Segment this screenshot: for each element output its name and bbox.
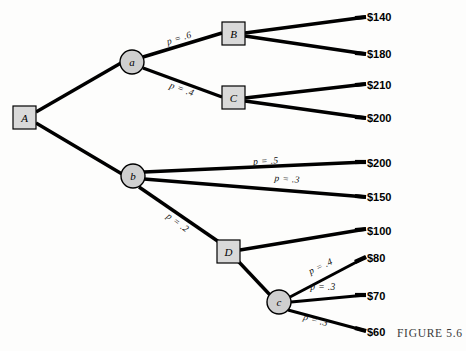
prob-label-c-to-payoff-60: p = .3 (301, 312, 329, 329)
decision-tree-figure: A B C D a b c p = .6 p (0, 0, 466, 351)
payoff-label-100: $100 (367, 225, 391, 237)
node-label-b: b (130, 170, 136, 182)
chance-node-b[interactable]: b (121, 164, 145, 188)
prob-label-c-to-payoff-80: p = .4 (306, 256, 334, 277)
prob-label-b-to-payoff-150: p = .3 (273, 173, 300, 185)
prob-label-c-to-payoff-70: p = .3 (309, 282, 335, 292)
payoff-label-70: $70 (367, 290, 385, 302)
payoff-tip-80 (355, 257, 366, 262)
payoff-label-group: $140 $180 $210 $200 $200 $150 $100 $80 $… (367, 11, 391, 338)
edge-c-to-payoff-70 (291, 295, 366, 302)
decision-node-C[interactable]: C (222, 86, 245, 109)
payoff-tip-100 (355, 229, 366, 230)
payoff-tip-140 (355, 17, 366, 18)
payoff-label-180: $180 (367, 48, 391, 60)
edge-A-to-a (36, 63, 121, 112)
node-label-C: C (230, 92, 238, 104)
edge-D-to-c (238, 261, 271, 296)
node-label-c: c (277, 296, 282, 308)
edge-C-to-payoff-210 (245, 84, 366, 98)
payoff-label-150: $150 (367, 191, 391, 203)
decision-node-A[interactable]: A (13, 106, 36, 129)
prob-label-b-to-payoff-200b: p = .5 (252, 155, 279, 166)
edge-B-to-payoff-140 (245, 17, 366, 33)
edge-b-to-payoff-150 (144, 179, 366, 197)
payoff-label-200b: $200 (367, 157, 391, 169)
node-label-D: D (224, 246, 233, 258)
payoff-label-200a: $200 (367, 112, 391, 124)
payoff-label-60: $60 (367, 326, 385, 338)
edge-B-to-payoff-180 (245, 36, 366, 54)
node-label-a: a (129, 56, 135, 68)
decision-node-D[interactable]: D (217, 240, 240, 263)
payoff-label-210: $210 (367, 79, 391, 91)
edge-b-to-D (139, 187, 219, 242)
payoff-tip-group (355, 17, 366, 331)
payoff-tip-200a (355, 117, 366, 118)
payoff-tip-180 (355, 53, 366, 54)
figure-caption: FIGURE 5.6 (397, 327, 463, 339)
node-label-B: B (230, 28, 237, 40)
decision-node-B[interactable]: B (222, 22, 245, 45)
node-label-A: A (20, 112, 28, 124)
payoff-tip-150 (355, 196, 366, 197)
edge-A-to-b (36, 123, 122, 174)
chance-node-c[interactable]: c (267, 290, 291, 314)
payoff-tip-60 (355, 328, 366, 331)
edge-C-to-payoff-200a (245, 101, 366, 118)
probability-label-group: p = .6 p = .4 p = .5 p = .3 p = .2 p = .… (164, 30, 336, 329)
payoff-label-140: $140 (367, 11, 391, 23)
chance-node-a[interactable]: a (120, 50, 144, 74)
edge-D-to-payoff-100 (240, 229, 366, 250)
payoff-label-80: $80 (367, 252, 385, 264)
payoff-tip-210 (355, 84, 366, 85)
decision-tree-canvas: A B C D a b c p = .6 p (0, 0, 466, 351)
